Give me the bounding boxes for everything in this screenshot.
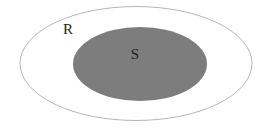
inner-set-label-s: S: [131, 46, 139, 62]
venn-diagram-svg: R S: [0, 0, 272, 137]
outer-set-label-r: R: [63, 21, 73, 37]
inner-set-ellipse-s: [73, 27, 207, 101]
venn-diagram-canvas: R S: [0, 0, 272, 137]
